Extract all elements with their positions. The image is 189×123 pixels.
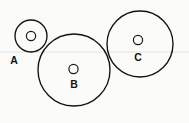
circle-group-a: A [10,20,47,66]
circle-c-center-dot [133,35,142,44]
circle-a-outline [15,20,47,52]
circle-a-label: A [10,54,18,66]
circle-b-label: B [70,78,78,90]
circle-group-b: B [38,34,110,106]
circle-c-label: C [134,51,142,63]
circles-diagram: A B C [0,0,189,123]
circle-a-center-dot [26,31,35,40]
diagram-canvas: A B C [0,0,189,123]
circle-b-outline [38,34,110,106]
circle-group-c: C [107,11,173,77]
circle-b-center-dot [69,64,78,73]
